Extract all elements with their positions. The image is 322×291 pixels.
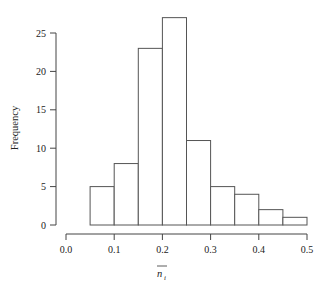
histogram-bar (138, 48, 162, 225)
histogram-bar (259, 210, 283, 225)
x-tick-label: 0.0 (60, 244, 73, 255)
x-axis-title: n i (157, 266, 167, 282)
histogram-bars (90, 18, 307, 225)
y-tick-label: 5 (41, 181, 46, 192)
x-axis: 0.00.10.20.30.40.5 (60, 234, 314, 255)
y-tick-label: 20 (36, 66, 46, 77)
y-axis-title: Frequency (9, 105, 20, 150)
x-tick-label: 0.1 (108, 244, 121, 255)
x-tick-label: 0.3 (204, 244, 217, 255)
x-axis-title-subscript: i (164, 274, 166, 282)
histogram-bar (90, 187, 114, 225)
histogram-bar (211, 187, 235, 225)
histogram-bar (235, 194, 259, 225)
y-tick-label: 25 (36, 28, 46, 39)
histogram-bar (162, 18, 186, 225)
x-tick-label: 0.4 (253, 244, 266, 255)
y-tick-label: 0 (41, 220, 46, 231)
x-axis-title-base: n (157, 268, 162, 279)
histogram-chart: 0510152025 0.00.10.20.30.40.5 Frequency … (0, 0, 322, 291)
y-tick-label: 15 (36, 104, 46, 115)
histogram-bar (283, 217, 307, 225)
y-tick-label: 10 (36, 143, 46, 154)
histogram-bar (114, 164, 138, 225)
x-tick-label: 0.2 (156, 244, 169, 255)
histogram-bar (187, 141, 211, 225)
y-axis: 0510152025 (36, 28, 56, 231)
x-tick-label: 0.5 (301, 244, 314, 255)
